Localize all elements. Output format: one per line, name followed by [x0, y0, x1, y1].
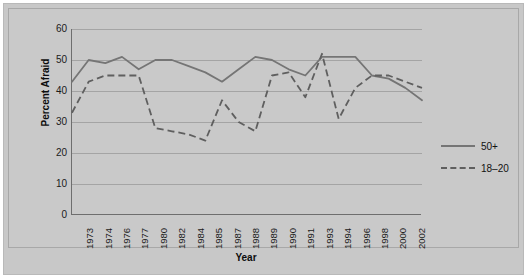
legend-item-50plus: 50+ — [441, 135, 527, 157]
legend-label-18to20: 18–20 — [481, 163, 509, 174]
x-axis-title: Year — [71, 252, 421, 263]
x-axis-tick-labels: 1973197419761977198019821984198519871988… — [71, 217, 421, 251]
series-plot — [72, 29, 422, 215]
series-line-18to20 — [72, 54, 422, 141]
legend-line-dashed-icon — [441, 163, 475, 173]
legend-item-18to20: 18–20 — [441, 157, 527, 179]
series-line-50plus — [72, 57, 422, 100]
x-tick-2002: 2002 — [416, 215, 448, 249]
y-axis-title: Percent Afraid — [40, 33, 51, 153]
legend-line-solid-icon — [441, 141, 475, 151]
plot-area — [71, 29, 421, 215]
chart-figure: 60 50 40 30 20 10 0 Percent Afraid 19731… — [0, 0, 527, 278]
chart-legend: 50+ 18–20 — [441, 135, 527, 179]
y-tick-0: 0 — [41, 210, 67, 220]
legend-label-50plus: 50+ — [481, 141, 498, 152]
y-tick-10: 10 — [41, 179, 67, 189]
chart-canvas: 60 50 40 30 20 10 0 Percent Afraid 19731… — [8, 8, 519, 248]
